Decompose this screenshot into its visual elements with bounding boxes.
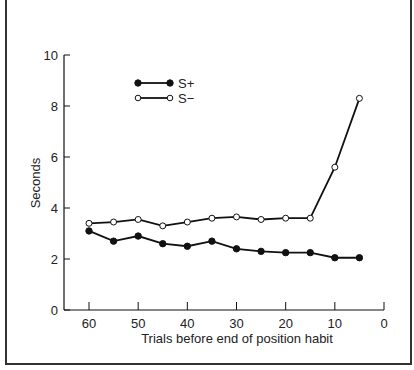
data-point — [283, 215, 289, 221]
x-tick-label: 10 — [328, 316, 342, 331]
y-tick-label: 6 — [51, 150, 58, 165]
data-point — [160, 223, 166, 229]
x-tick-label: 40 — [180, 316, 194, 331]
data-point — [86, 228, 92, 234]
data-point — [110, 238, 116, 244]
data-point — [86, 220, 92, 226]
legend-marker — [167, 95, 173, 101]
y-tick-label: 8 — [51, 99, 58, 114]
x-tick-label: 20 — [278, 316, 292, 331]
data-point — [258, 248, 264, 254]
data-point — [356, 95, 362, 101]
legend: S+S− — [135, 76, 194, 106]
x-axis-label: Trials before end of position habit — [141, 331, 333, 346]
data-point — [111, 219, 117, 225]
data-point — [307, 249, 313, 255]
data-point — [258, 216, 264, 222]
data-point — [209, 238, 215, 244]
x-tick-label: 60 — [82, 316, 96, 331]
x-tick-label: 0 — [380, 316, 387, 331]
y-tick-label: 4 — [51, 201, 58, 216]
data-point — [160, 241, 166, 247]
data-point — [135, 216, 141, 222]
data-point — [234, 214, 240, 220]
data-point — [135, 233, 141, 239]
y-tick-label: 2 — [51, 252, 58, 267]
data-point — [184, 219, 190, 225]
x-tick-label: 50 — [131, 316, 145, 331]
data-point — [332, 164, 338, 170]
data-point — [233, 246, 239, 252]
data-point — [209, 215, 215, 221]
series-line-s-plus — [89, 231, 359, 258]
data-point — [332, 255, 338, 261]
legend-label: S+ — [178, 76, 194, 91]
data-point — [356, 255, 362, 261]
x-tick-label: 30 — [229, 316, 243, 331]
data-point — [184, 243, 190, 249]
data-point — [282, 249, 288, 255]
y-tick-label: 10 — [44, 48, 58, 63]
line-chart: 02468106050403020100 S+S− Trials before … — [0, 0, 414, 370]
series-group — [86, 95, 363, 261]
legend-marker — [167, 80, 173, 86]
legend-marker — [135, 80, 141, 86]
y-axis-label: Seconds — [28, 157, 43, 208]
y-tick-label: 0 — [51, 303, 58, 318]
legend-marker — [135, 95, 141, 101]
axes: 02468106050403020100 — [44, 48, 388, 331]
series-line-s-minus — [89, 98, 359, 226]
data-point — [307, 215, 313, 221]
legend-label: S− — [178, 91, 194, 106]
